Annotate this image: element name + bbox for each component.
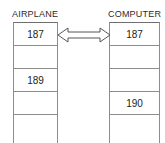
cell-computer-2 — [110, 46, 159, 69]
cell-computer-5 — [110, 115, 159, 138]
cell-airplane-1: 187 — [14, 23, 57, 46]
cell-computer-4: 190 — [110, 92, 159, 115]
column-stack-airplane: 187 189 — [13, 22, 58, 143]
column-stack-computer: 187 190 — [109, 22, 160, 143]
cell-computer-3 — [110, 69, 159, 92]
cell-airplane-2 — [14, 46, 57, 69]
two-column-linked-diagram: AIRPLANE COMPUTER 187 189 187 190 — [0, 0, 165, 143]
cell-computer-1: 187 — [110, 23, 159, 46]
cell-airplane-3: 189 — [14, 69, 57, 92]
double-headed-arrow-icon — [57, 26, 111, 44]
cell-airplane-4 — [14, 92, 57, 115]
column-header-airplane: AIRPLANE — [12, 9, 58, 19]
cell-airplane-5 — [14, 115, 57, 138]
column-header-computer: COMPUTER — [108, 9, 161, 19]
